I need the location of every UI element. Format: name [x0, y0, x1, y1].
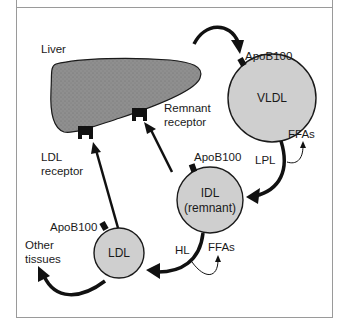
idl-particle — [177, 167, 243, 233]
ldl-to-tissues-arrow — [44, 276, 105, 295]
apob100-vldl-label: ApoB100 — [245, 49, 292, 63]
ldl-receptor-label-2: receptor — [41, 164, 83, 178]
apob100-ldl-label: ApoB100 — [50, 220, 97, 234]
other-tissues-label-2: tissues — [25, 252, 61, 266]
apob-ldl-icon — [99, 221, 108, 231]
remnant-receptor-label-2: receptor — [164, 115, 206, 129]
idl-text-1: IDL — [180, 186, 240, 200]
remnant-receptor-label-1: Remnant — [164, 101, 211, 115]
secretion-arrow — [194, 27, 238, 44]
ffas-label-1: FFAs — [288, 127, 315, 141]
vldl-text: VLDL — [242, 91, 302, 105]
ldl-receptor-label-1: LDL — [41, 150, 62, 164]
ffas-label-2: FFAs — [208, 240, 235, 254]
remnant-receptor-icon — [132, 108, 147, 121]
ffa-branch-2 — [192, 260, 218, 275]
ldl-to-liver-arrow — [96, 150, 118, 228]
idl-to-liver-arrow — [150, 128, 172, 172]
apob100-idl-label: ApoB100 — [194, 150, 241, 164]
hl-label: HL — [175, 243, 190, 257]
idl-text-2: (remnant) — [176, 201, 244, 215]
other-tissues-label-1: Other — [25, 238, 54, 252]
lpl-label: LPL — [255, 153, 275, 167]
ldl-receptor-icon — [78, 126, 93, 139]
ldl-text: LDL — [94, 246, 144, 260]
liver-label: Liver — [41, 42, 66, 56]
lpl-arrow — [255, 141, 284, 196]
ffa-branch-1 — [287, 146, 303, 163]
